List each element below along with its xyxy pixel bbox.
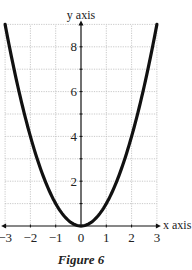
axes bbox=[1, 20, 161, 228]
x-tick-label: 3 bbox=[154, 230, 161, 245]
x-tick-label: 0 bbox=[78, 230, 85, 245]
y-tick-label: 4 bbox=[71, 129, 78, 144]
y-tick-label: 8 bbox=[71, 39, 78, 54]
x-axis-label: x axis bbox=[163, 218, 192, 232]
y-tick-label: 6 bbox=[71, 84, 78, 99]
parabola-chart: −3−2−101232468 y axis x axis bbox=[0, 0, 192, 270]
x-tick-label: 2 bbox=[128, 230, 135, 245]
x-tick-label: −2 bbox=[23, 230, 37, 245]
figure-caption: Figure 6 bbox=[0, 252, 162, 268]
x-tick-label: −1 bbox=[49, 230, 63, 245]
x-tick-label: 1 bbox=[103, 230, 110, 245]
x-tick-label: −3 bbox=[0, 230, 12, 245]
tick-labels: −3−2−101232468 bbox=[0, 39, 160, 245]
y-axis-label: y axis bbox=[67, 8, 96, 22]
y-tick-label: 2 bbox=[71, 174, 78, 189]
